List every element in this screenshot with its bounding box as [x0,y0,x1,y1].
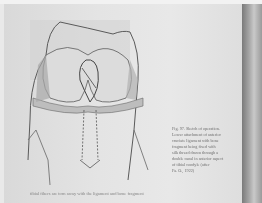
caption-line: Fa. O., 1922) [172,168,242,174]
figure-caption: Fig. 97. Sketch of operation. Lower atta… [172,126,242,174]
page-edge-shadow [242,4,262,203]
body-text-line: tibial fibers are torn away with the lig… [30,191,240,196]
knee-anatomy-sketch [8,10,168,185]
